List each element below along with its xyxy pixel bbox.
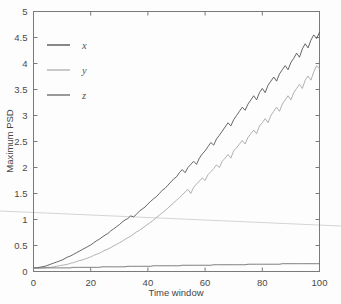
y-tick-label: 0.5 (14, 240, 27, 251)
y-tick-label: 4 (22, 58, 27, 69)
scan-fold-line-artifact (0, 211, 341, 226)
x-tick-label: 80 (257, 277, 268, 288)
x-tick-label: 100 (312, 277, 328, 288)
y-tick-label: 4.5 (14, 32, 27, 43)
legend: x y z (47, 40, 87, 101)
y-tick-label: 5 (22, 6, 27, 17)
y-axis-ticks: 00.511.522.533.544.55 (14, 6, 319, 277)
y-tick-label: 1 (22, 214, 27, 225)
series-line-x (34, 32, 320, 268)
x-tick-label: 20 (85, 277, 96, 288)
y-tick-label: 3 (22, 110, 27, 121)
y-axis-title: Maximum PSD (4, 109, 15, 172)
y-tick-label: 2 (22, 162, 27, 173)
y-tick-label: 2.5 (14, 136, 27, 147)
y-tick-label: 3.5 (14, 84, 27, 95)
x-axis-ticks: 020406080100 (31, 12, 328, 288)
x-axis-title: Time window (148, 287, 203, 298)
series-line-z (34, 264, 320, 268)
y-tick-label: 1.5 (14, 188, 27, 199)
x-tick-label: 0 (31, 277, 36, 288)
data-series-group (34, 32, 320, 268)
x-tick-label: 40 (143, 277, 154, 288)
x-tick-label: 60 (200, 277, 211, 288)
legend-label-x: x (81, 40, 87, 51)
series-line-y (34, 66, 320, 269)
figure-container: 00.511.522.533.544.55 020406080100 x y z… (0, 0, 341, 304)
plot-frame (34, 12, 320, 272)
legend-label-z: z (81, 90, 86, 101)
chart-plot: 00.511.522.533.544.55 020406080100 x y z… (0, 0, 341, 304)
legend-label-y: y (81, 65, 87, 76)
y-tick-label: 0 (22, 266, 27, 277)
